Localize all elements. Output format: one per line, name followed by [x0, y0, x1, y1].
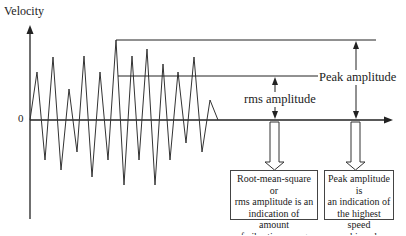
peak-box-line: achieved [327, 231, 391, 236]
rms-callout-arrow-icon [265, 122, 284, 170]
rms-box-line: indication of amount [233, 208, 315, 231]
peak-callout-arrow-icon [346, 122, 365, 170]
peak-arrow-up-icon [353, 41, 359, 49]
rms-explanation-box: Root-mean-square or rms amplitude is an … [230, 170, 318, 220]
peak-explanation-box: Peak amplitude is an indication of the h… [324, 170, 394, 220]
y-axis-label: Velocity [4, 4, 44, 19]
rms-amplitude-label: rms amplitude [243, 92, 317, 107]
peak-box-line: the highest speed [327, 208, 391, 231]
velocity-waveform [30, 40, 218, 185]
peak-box-line: an indication of [327, 196, 391, 208]
y-axis-arrow-icon [27, 25, 34, 34]
rms-box-line: Root-mean-square or [233, 173, 315, 196]
rms-box-line: of vibration energy [233, 231, 315, 236]
rms-arrow-up-icon [272, 77, 278, 85]
rms-box-line: rms amplitude is an [233, 196, 315, 208]
rms-arrow-down-icon [272, 111, 278, 119]
x-axis-arrow-icon [384, 117, 393, 124]
peak-arrow-down-icon [353, 111, 359, 119]
peak-box-line: Peak amplitude is [327, 173, 391, 196]
peak-amplitude-label: Peak amplitude [318, 70, 397, 85]
origin-label: 0 [18, 112, 24, 124]
